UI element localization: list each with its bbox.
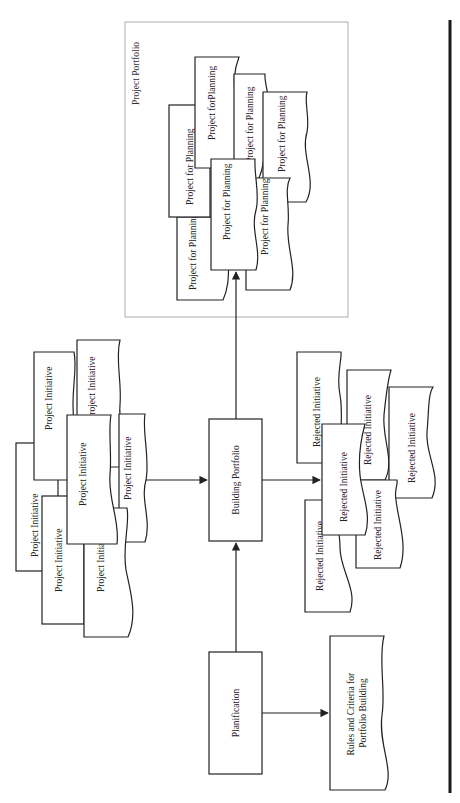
svg-text:Rejected Initiative: Rejected Initiative [339,452,349,522]
svg-text:Project Initiative: Project Initiative [30,493,40,557]
svg-text:Planification: Planification [231,688,241,737]
svg-text:Rejected Initiative: Rejected Initiative [312,377,322,447]
svg-text:Project Initiative: Project Initiative [87,356,97,420]
rules-criteria-document[interactable]: Rules and Criteria for Portfolio Buildin… [330,636,388,790]
svg-text:Project Initiative: Project Initiative [54,528,64,592]
svg-text:Building Portfolio: Building Portfolio [231,445,241,515]
svg-text:Rejected Initiative: Rejected Initiative [373,490,383,560]
svg-text:Project for Planning: Project for Planning [277,95,287,172]
initiative-doc-7[interactable]: Project Initiative [67,415,117,544]
svg-text:Project Initiative: Project Initiative [78,442,88,506]
svg-text:Project for Planning: Project for Planning [245,86,255,163]
svg-text:Project for Planning: Project for Planning [260,178,270,255]
planification-box[interactable]: Planification [209,652,262,774]
building-portfolio-box[interactable]: Building Portfolio [209,419,262,541]
portfolio-doc-7[interactable]: Project for Planning [211,159,258,270]
svg-text:Project for Planning: Project for Planning [188,213,198,290]
svg-text:Project for Planning: Project for Planning [222,163,232,240]
svg-text:Rejected Initiative: Rejected Initiative [363,395,373,465]
svg-text:Project Initiative: Project Initiative [44,366,54,430]
svg-text:Project forPlanning: Project forPlanning [207,66,217,140]
svg-text:Project for Planning: Project for Planning [185,128,195,205]
project-initiatives-group: Project Initiative Project Initiative Pr… [16,340,147,637]
portfolio-label: Project Portfolio [131,42,141,105]
rejected-initiatives-group: Rejected Initiative Rejected Initiative … [297,352,435,612]
portfolio-process-diagram: Project Portfolio Project for Planning P… [0,0,460,803]
svg-text:Project Initiative: Project Initiative [123,436,133,500]
rejected-doc-6[interactable]: Rejected Initiative [322,424,367,535]
svg-text:Rejected Initiative: Rejected Initiative [407,413,417,483]
